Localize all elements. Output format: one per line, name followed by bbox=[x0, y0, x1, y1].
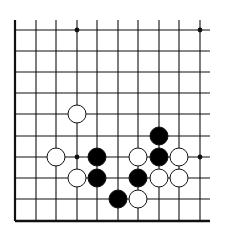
black-stone bbox=[150, 127, 168, 145]
white-stone bbox=[170, 148, 188, 166]
white-stone bbox=[170, 169, 188, 187]
white-stone bbox=[129, 190, 147, 208]
white-stone bbox=[68, 169, 86, 187]
white-stone bbox=[47, 148, 65, 166]
star-point-icon bbox=[198, 155, 203, 160]
star-point-icon bbox=[75, 28, 80, 33]
star-point-icon bbox=[198, 28, 203, 33]
black-stone bbox=[129, 169, 147, 187]
white-stone bbox=[68, 105, 86, 123]
white-stone bbox=[129, 148, 147, 166]
star-point-icon bbox=[75, 155, 80, 160]
board-grid bbox=[15, 20, 210, 221]
black-stone bbox=[88, 148, 106, 166]
go-board bbox=[0, 0, 227, 237]
black-stone bbox=[150, 148, 168, 166]
white-stone bbox=[150, 169, 168, 187]
black-stone bbox=[88, 169, 106, 187]
black-stone bbox=[109, 190, 127, 208]
